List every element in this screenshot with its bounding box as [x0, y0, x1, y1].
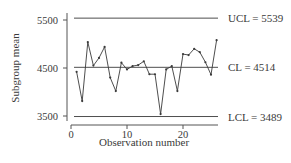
data-point [154, 73, 156, 75]
y-ticks: 350045005500 [37, 15, 67, 122]
data-point [137, 64, 139, 66]
data-point [98, 57, 100, 59]
control-chart: 350045005500 01020 UCL = 5539CL = 4514LC… [0, 0, 291, 163]
data-point [210, 74, 212, 76]
data-point [204, 61, 206, 63]
y-tick-label: 3500 [37, 111, 58, 122]
data-series-line [77, 40, 217, 114]
data-point [143, 60, 145, 62]
data-point [92, 65, 94, 67]
data-point [182, 53, 184, 55]
control-lines: UCL = 5539CL = 4514LCL = 3489 [74, 12, 284, 122]
y-tick-label: 5500 [37, 15, 58, 26]
x-axis-title: Observation number [99, 136, 189, 148]
data-point [120, 62, 122, 64]
cl-label: CL = 4514 [228, 61, 276, 73]
data-point [76, 71, 78, 73]
data-point [160, 113, 162, 115]
data-point [126, 68, 128, 70]
y-axis-title: Subgroup mean [9, 33, 21, 103]
data-point [193, 48, 195, 50]
data-point [171, 65, 173, 67]
data-point [132, 65, 134, 67]
ucl-label: UCL = 5539 [228, 12, 284, 24]
y-tick-label: 4500 [37, 63, 58, 74]
data-point [87, 41, 89, 43]
data-point [109, 77, 111, 79]
data-point [199, 51, 201, 53]
data-point [165, 68, 167, 70]
data-point [148, 73, 150, 75]
data-point [81, 100, 83, 102]
data-point [176, 90, 178, 92]
x-tick-label: 0 [68, 129, 73, 140]
data-point [216, 39, 218, 41]
lcl-label: LCL = 3489 [228, 111, 283, 123]
data-point [188, 54, 190, 56]
data-point [104, 46, 106, 48]
data-point [115, 90, 117, 92]
